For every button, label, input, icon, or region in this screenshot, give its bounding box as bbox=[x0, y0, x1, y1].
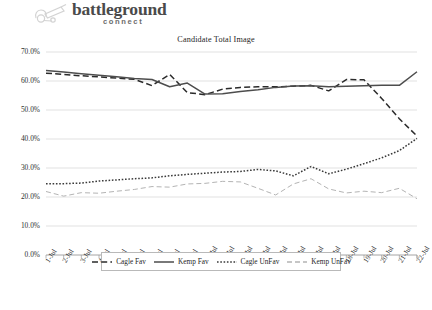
series-line-cagle-fav bbox=[46, 73, 417, 136]
legend-swatch-dashed-icon bbox=[91, 258, 113, 266]
legend-item-cagle-fav[interactable]: Cagle Fav bbox=[91, 257, 146, 266]
cannon-icon bbox=[33, 2, 69, 24]
y-axis-tick-label: 70.0% bbox=[0, 47, 40, 56]
y-axis-tick-label: 0.0% bbox=[0, 250, 40, 259]
y-axis-tick-label: 40.0% bbox=[0, 134, 40, 143]
y-axis-tick-label: 20.0% bbox=[0, 192, 40, 201]
legend-item-cagle-unfav[interactable]: Cagle UnFav bbox=[216, 257, 280, 266]
brand-header: battleground connect bbox=[0, 0, 432, 30]
legend-label: Kemp UnFav bbox=[311, 257, 351, 266]
chart-legend: Cagle FavKemp FavCagle UnFavKemp UnFav bbox=[101, 252, 341, 271]
legend-item-kemp-unfav[interactable]: Kemp UnFav bbox=[286, 257, 351, 266]
legend-label: Cagle Fav bbox=[116, 257, 146, 266]
legend-swatch-solid-icon bbox=[153, 258, 175, 266]
y-axis-tick-label: 10.0% bbox=[0, 221, 40, 230]
legend-label: Cagle UnFav bbox=[241, 257, 280, 266]
series-line-kemp-fav bbox=[46, 71, 417, 94]
brand-subword: connect bbox=[103, 17, 143, 26]
legend-swatch-dotted-icon bbox=[216, 258, 238, 266]
y-axis-tick-label: 60.0% bbox=[0, 76, 40, 85]
series-line-cagle-unfav bbox=[46, 138, 417, 183]
y-axis-tick-label: 30.0% bbox=[0, 163, 40, 172]
legend-swatch-dashdot-icon bbox=[286, 258, 308, 266]
series-line-kemp-unfav bbox=[46, 179, 417, 199]
legend-label: Kemp Fav bbox=[178, 257, 209, 266]
legend-item-kemp-fav[interactable]: Kemp Fav bbox=[153, 257, 209, 266]
y-axis-tick-label: 50.0% bbox=[0, 105, 40, 114]
